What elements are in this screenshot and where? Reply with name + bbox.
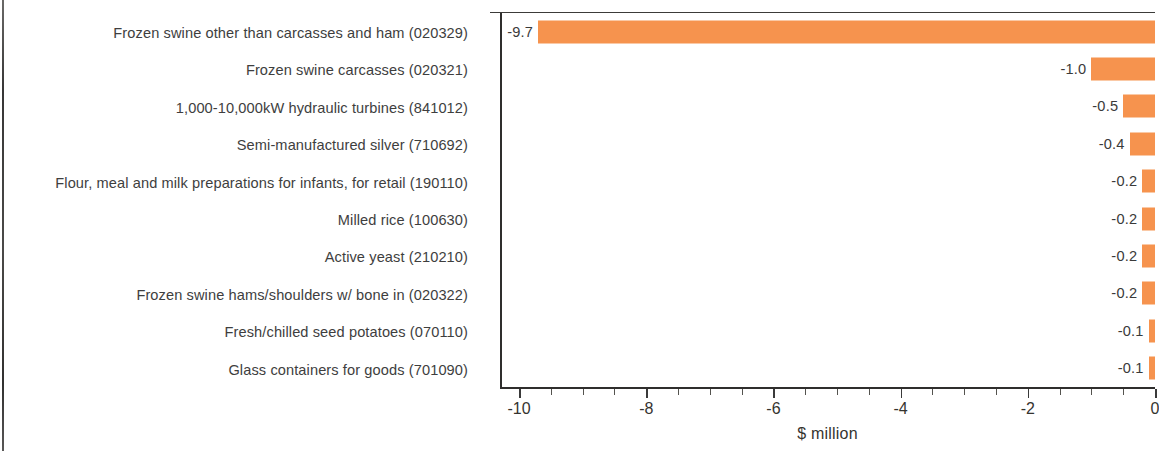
x-axis-tick-minor	[583, 389, 584, 395]
x-axis-tick-label: -6	[766, 400, 780, 418]
category-label: Frozen swine other than carcasses and ha…	[0, 15, 472, 52]
x-axis-tick-minor	[1091, 389, 1092, 395]
category-label: Milled rice (100630)	[0, 202, 472, 239]
bar[interactable]	[1149, 357, 1155, 380]
bar-value-label: -0.1	[1118, 360, 1144, 376]
x-axis-tick-label: -4	[894, 400, 908, 418]
x-axis-tick-minor	[932, 389, 933, 395]
bar[interactable]	[1123, 95, 1155, 118]
bar-row: -0.1	[500, 350, 1155, 387]
x-axis-tick-minor	[869, 389, 870, 395]
bar[interactable]	[1142, 282, 1155, 305]
x-axis-tick-label: -8	[639, 400, 653, 418]
x-axis-tick-minor	[678, 389, 679, 395]
x-axis-tick-major	[1155, 389, 1157, 398]
category-label: Frozen swine carcasses (020321)	[0, 52, 472, 89]
x-axis-tick-minor	[996, 389, 997, 395]
x-axis-tick-minor	[805, 389, 806, 395]
bar-value-label: -0.2	[1111, 211, 1137, 227]
x-axis-tick-minor	[742, 389, 743, 395]
plot-area: -9.7-1.0-0.5-0.4-0.2-0.2-0.2-0.2-0.1-0.1	[500, 13, 1155, 388]
x-axis-tick-major	[901, 389, 903, 398]
x-axis-tick-minor	[1123, 389, 1124, 395]
bar-value-label: -9.7	[507, 24, 533, 40]
bar-value-label: -1.0	[1060, 61, 1086, 77]
x-axis-tick-major	[519, 389, 521, 398]
x-axis: $ million -10-8-6-4-20	[500, 389, 1155, 451]
category-label: 1,000-10,000kW hydraulic turbines (84101…	[0, 90, 472, 127]
bar-value-label: -0.5	[1092, 98, 1118, 114]
bar-row: -9.7	[500, 13, 1155, 50]
category-label: Semi-manufactured silver (710692)	[0, 127, 472, 164]
bar[interactable]	[1142, 207, 1155, 230]
bar-row: -0.2	[500, 163, 1155, 200]
bar-row: -0.1	[500, 312, 1155, 349]
category-label-column: Frozen swine other than carcasses and ha…	[0, 13, 472, 388]
bar[interactable]	[538, 20, 1155, 43]
x-axis-tick-minor	[964, 389, 965, 395]
x-axis-tick-minor	[837, 389, 838, 395]
x-axis-tick-label: 0	[1151, 400, 1159, 418]
bar-row: -0.5	[500, 88, 1155, 125]
bar-value-label: -0.1	[1118, 323, 1144, 339]
bar[interactable]	[1149, 319, 1155, 342]
category-label: Flour, meal and milk preparations for in…	[0, 165, 472, 202]
x-axis-tick-major	[773, 389, 775, 398]
x-axis-tick-minor	[1060, 389, 1061, 395]
x-axis-tick-major	[646, 389, 648, 398]
bar-row: -0.4	[500, 125, 1155, 162]
bar-value-label: -0.4	[1099, 136, 1125, 152]
bar[interactable]	[1091, 58, 1155, 81]
x-axis-title: $ million	[500, 425, 1155, 443]
bar-row: -0.2	[500, 237, 1155, 274]
bar-row: -0.2	[500, 275, 1155, 312]
bar-value-label: -0.2	[1111, 285, 1137, 301]
bar-row: -0.2	[500, 200, 1155, 237]
x-axis-tick-minor	[614, 389, 615, 395]
x-axis-tick-label: -2	[1021, 400, 1035, 418]
category-label: Frozen swine hams/shoulders w/ bone in (…	[0, 277, 472, 314]
x-axis-tick-label: -10	[508, 400, 531, 418]
category-label: Glass containers for goods (701090)	[0, 352, 472, 389]
x-axis-tick-minor	[710, 389, 711, 395]
bar-row: -1.0	[500, 50, 1155, 87]
bar[interactable]	[1130, 132, 1155, 155]
bar[interactable]	[1142, 245, 1155, 268]
category-label: Active yeast (210210)	[0, 239, 472, 276]
x-axis-tick-minor	[551, 389, 552, 395]
bar-value-label: -0.2	[1111, 173, 1137, 189]
category-label: Fresh/chilled seed potatoes (070110)	[0, 314, 472, 351]
x-axis-tick-major	[1028, 389, 1030, 398]
bar[interactable]	[1142, 170, 1155, 193]
bar-value-label: -0.2	[1111, 248, 1137, 264]
